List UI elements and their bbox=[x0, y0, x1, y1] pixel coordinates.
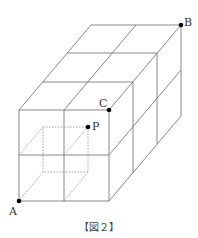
point-c-label: C bbox=[99, 97, 107, 110]
cube-diagram: A B C P bbox=[0, 0, 198, 238]
hidden-cube bbox=[19, 127, 88, 201]
point-b-marker bbox=[179, 23, 184, 28]
point-p-label: P bbox=[92, 120, 100, 133]
point-a-label: A bbox=[8, 205, 18, 218]
figure-caption: 【図２】 bbox=[0, 219, 198, 234]
right-face bbox=[109, 25, 181, 201]
point-p-marker bbox=[86, 125, 91, 130]
point-b-label: B bbox=[184, 16, 192, 29]
point-a-marker bbox=[17, 199, 22, 204]
